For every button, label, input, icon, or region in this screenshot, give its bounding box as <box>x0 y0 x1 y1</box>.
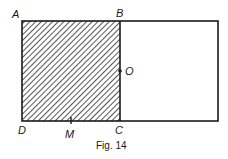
figure-caption: Fig. 14 <box>96 140 127 151</box>
label-m: M <box>65 128 75 140</box>
square-abcd-hatched <box>22 21 120 121</box>
label-c: C <box>115 124 123 136</box>
label-b: B <box>116 7 123 19</box>
label-d: D <box>18 124 26 136</box>
point-o <box>118 69 122 73</box>
label-o: O <box>125 65 134 77</box>
geometry-figure: A B O D M C Fig. 14 <box>0 0 228 159</box>
label-a: A <box>11 8 19 20</box>
